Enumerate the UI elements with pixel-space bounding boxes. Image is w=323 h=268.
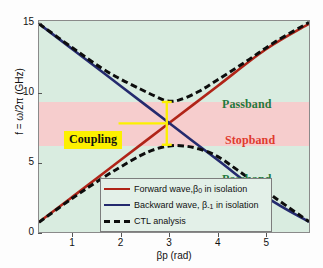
legend: Forward wave,β0 in isolationBackward wav… [100, 178, 272, 232]
legend-line-backward-wave [104, 204, 130, 207]
x-tick-label-5: 5 [256, 237, 276, 248]
y-tick-mark-10 [38, 93, 42, 94]
x-tick-label-3: 3 [159, 237, 179, 248]
x-tick-label-2: 2 [111, 237, 131, 248]
legend-line-ctl-analysis [104, 220, 130, 223]
coupling-annotation: Coupling [64, 131, 122, 149]
y-tick-mark-15 [38, 23, 42, 24]
x-tick-mark-2 [121, 233, 122, 237]
y-tick-label-10: 10 [0, 86, 34, 97]
legend-swatch-backward-wave [104, 200, 130, 211]
legend-label-suffix-backward-wave: in isolation [213, 200, 258, 210]
legend-label-prefix-backward-wave: Backward wave, β [134, 200, 207, 210]
x-tick-mark-5 [266, 233, 267, 237]
passband-upper-label: Passband [222, 97, 272, 112]
x-tick-label-4: 4 [208, 237, 228, 248]
legend-label-prefix-ctl-analysis: CTL analysis [134, 216, 186, 226]
legend-row-ctl-analysis[interactable]: CTL analysis [104, 213, 268, 229]
legend-swatch-forward-wave [104, 184, 130, 195]
legend-line-forward-wave [104, 188, 130, 191]
y-tick-label-15: 15 [0, 16, 34, 27]
coupling-gap-arrow [119, 101, 172, 146]
legend-swatch-ctl-analysis [104, 216, 130, 227]
y-tick-label-5: 5 [0, 156, 34, 167]
legend-row-backward-wave[interactable]: Backward wave, β-1 in isolation [104, 197, 268, 213]
x-axis-label: βp (rad) [38, 250, 310, 261]
x-axis-label-text: βp (rad) [156, 250, 191, 261]
y-axis-label: f = ω/2π (GHz) [14, 37, 25, 167]
legend-label-prefix-forward-wave: Forward wave,β [134, 184, 198, 194]
y-tick-label-0: 0 [0, 226, 34, 237]
legend-label-backward-wave: Backward wave, β-1 in isolation [134, 200, 258, 210]
figure-container: Passband Stopband Passband Coupling f = … [0, 0, 323, 268]
legend-label-suffix-forward-wave: in isolation [202, 184, 247, 194]
x-tick-label-1: 1 [62, 237, 82, 248]
y-tick-mark-5 [38, 163, 42, 164]
x-tick-mark-3 [169, 233, 170, 237]
legend-label-forward-wave: Forward wave,β0 in isolation [134, 184, 247, 194]
y-axis-label-text: f = ω/2π (GHz) [14, 68, 25, 135]
x-tick-mark-1 [72, 233, 73, 237]
ctl-upper-branch-path [39, 22, 309, 101]
stopband-label: Stopband [225, 133, 275, 148]
x-tick-mark-4 [218, 233, 219, 237]
y-tick-mark-0 [38, 233, 42, 234]
legend-label-ctl-analysis: CTL analysis [134, 216, 186, 226]
legend-row-forward-wave[interactable]: Forward wave,β0 in isolation [104, 181, 268, 197]
